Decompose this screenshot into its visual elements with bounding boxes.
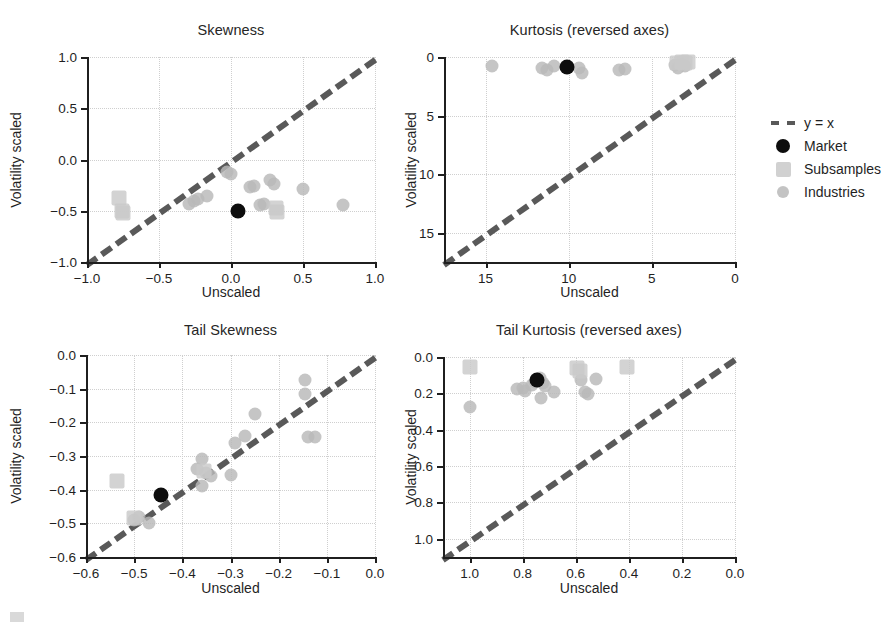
gridline-vertical [682, 357, 683, 557]
data-point-market [530, 372, 545, 387]
gridline-horizontal [443, 539, 735, 540]
x-axis-tick [735, 557, 737, 563]
data-point-subsample [572, 363, 587, 378]
x-axis-title: Unscaled [560, 580, 618, 596]
y-axis-tick [437, 502, 444, 504]
x-axis-tick [523, 557, 525, 563]
legend-entry-2: Market [770, 135, 847, 157]
gridline-horizontal [443, 430, 735, 431]
legend-label: Industries [804, 184, 865, 200]
x-axis-tick-label: 0.6 [566, 566, 585, 581]
x-axis-tick-label: 0.0 [726, 566, 745, 581]
gridline-vertical [735, 357, 736, 557]
y-axis-tick [437, 466, 444, 468]
gridline-horizontal [443, 466, 735, 467]
y-axis-tick-label: 1.0 [385, 531, 433, 546]
data-point-market [153, 487, 168, 502]
black-circle-icon [776, 139, 790, 153]
data-point-industry [581, 388, 594, 401]
x-axis-tick [470, 557, 472, 563]
x-axis-tick-label: 0.2 [673, 566, 692, 581]
data-point-market [560, 59, 575, 74]
legend-label: Subsamples [804, 161, 881, 177]
legend-entry-4: Industries [770, 181, 865, 203]
legend-marker-wrap [770, 186, 796, 198]
gridline-horizontal [443, 357, 735, 358]
y-axis-tick [437, 430, 444, 432]
x-axis-tick [629, 557, 631, 563]
legend-marker-wrap [770, 121, 796, 125]
x-axis-tick-label: 0.8 [513, 566, 532, 581]
y-axis-tick [437, 393, 444, 395]
x-axis-tick-label: 0.4 [619, 566, 638, 581]
data-point-market [231, 203, 246, 218]
data-point-industry [589, 372, 602, 385]
y-axis-tick-label: 0.0 [385, 350, 433, 365]
legend-label: Market [804, 138, 847, 154]
y-axis-line [443, 357, 445, 557]
gray-square-icon [776, 162, 791, 177]
legend-entry-1: y = x [770, 112, 834, 134]
x-axis-tick [576, 557, 578, 563]
gridline-horizontal [443, 502, 735, 503]
data-point-industry [463, 401, 476, 414]
legend-marker-wrap [770, 139, 796, 153]
light-circle-icon [777, 186, 789, 198]
legend-entry-3: Subsamples [770, 158, 881, 180]
legend-label: y = x [804, 115, 834, 131]
y-axis-title: Volatility scaled [403, 409, 419, 505]
data-point-subsample [462, 360, 477, 375]
x-axis-tick [682, 557, 684, 563]
y-axis-tick [437, 357, 444, 359]
y-axis-tick [437, 539, 444, 541]
data-point-industry [535, 391, 548, 404]
legend-marker-wrap [770, 162, 796, 177]
panel-title-tail-kurtosis: Tail Kurtosis (reversed axes) [443, 322, 735, 338]
data-point-subsample [620, 360, 635, 375]
dashed-line-icon [771, 121, 795, 125]
x-axis-line [443, 557, 735, 559]
x-axis-tick-label: 1.0 [460, 566, 479, 581]
gridline-vertical [629, 357, 630, 557]
data-point-industry [548, 386, 561, 399]
page-corner-artifact [10, 612, 24, 622]
figure-legend: y = xMarketSubsamplesIndustries [770, 112, 879, 212]
gridline-vertical [470, 357, 471, 557]
gridline-vertical [576, 357, 577, 557]
y-axis-tick-label: 0.2 [385, 386, 433, 401]
